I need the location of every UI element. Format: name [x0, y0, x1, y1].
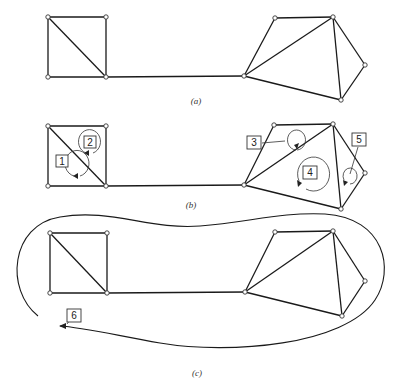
- edge: [245, 232, 275, 292]
- node: [340, 314, 344, 318]
- arrowhead-icon: [297, 180, 302, 187]
- edge: [245, 292, 342, 316]
- loop-label-3: 3: [251, 137, 257, 148]
- loop-label-2: 2: [87, 137, 93, 148]
- node: [46, 15, 50, 19]
- edge: [48, 17, 106, 77]
- edge: [244, 18, 275, 76]
- node: [331, 122, 335, 126]
- node: [46, 184, 50, 188]
- loop-label-6: 6: [71, 310, 77, 321]
- node: [273, 230, 277, 234]
- panel-c-edges: [50, 231, 365, 316]
- node: [363, 279, 367, 283]
- panel-a: (a): [46, 15, 367, 106]
- node: [48, 231, 52, 235]
- node: [339, 207, 343, 211]
- edge: [342, 281, 365, 316]
- node: [242, 183, 246, 187]
- panel-c-nodes: [48, 229, 367, 318]
- edge: [244, 124, 333, 185]
- edge: [274, 124, 333, 125]
- edge: [244, 17, 333, 76]
- node: [104, 184, 108, 188]
- node: [272, 123, 276, 127]
- panel-a-nodes: [46, 15, 367, 102]
- edge: [275, 17, 333, 18]
- mesh-loop-2: 2: [79, 130, 101, 156]
- mesh-loop-3: 3: [247, 130, 305, 150]
- edge: [275, 231, 333, 232]
- node: [105, 291, 109, 295]
- panel-c: 6 (c): [17, 214, 384, 378]
- node: [331, 229, 335, 233]
- arrowhead-icon: [343, 180, 348, 186]
- arrowhead-icon: [59, 323, 66, 329]
- mesh-loop-4: 4: [297, 157, 330, 191]
- node: [243, 290, 247, 294]
- figure-canvas: (a) 1 2: [0, 0, 393, 381]
- bridge-edge: [106, 185, 244, 186]
- node: [105, 231, 109, 235]
- arrowhead-icon: [73, 173, 78, 179]
- panel-b-caption: (b): [186, 200, 197, 210]
- panel-c-caption: (c): [192, 368, 202, 378]
- node: [46, 75, 50, 79]
- node: [331, 15, 335, 19]
- edge: [245, 231, 333, 292]
- bridge-edge: [106, 76, 244, 77]
- loop-label-4: 4: [307, 167, 313, 178]
- panel-b-nodes: [46, 122, 367, 211]
- node: [46, 124, 50, 128]
- node: [273, 16, 277, 20]
- node: [363, 171, 367, 175]
- node: [48, 291, 52, 295]
- mesh-loop-6: 6: [67, 309, 81, 324]
- loop-label-5: 5: [356, 134, 362, 145]
- node: [363, 63, 367, 67]
- loop-label-1: 1: [59, 156, 65, 167]
- edge: [244, 125, 274, 185]
- bridge-edge: [107, 292, 245, 293]
- node: [104, 124, 108, 128]
- panel-a-edges: [48, 17, 365, 100]
- edge: [244, 185, 341, 209]
- edge: [333, 17, 365, 65]
- edge: [244, 76, 341, 100]
- node: [339, 98, 343, 102]
- circular-arrow-icon: [65, 150, 89, 176]
- node: [104, 15, 108, 19]
- mesh-loop-5: 5: [343, 133, 366, 186]
- node: [242, 74, 246, 78]
- edge: [333, 124, 341, 209]
- edge: [341, 173, 365, 209]
- panel-b: 1 2 3 4 5: [46, 122, 367, 211]
- edge: [341, 65, 365, 100]
- edge: [50, 233, 107, 293]
- node: [104, 75, 108, 79]
- mesh-loop-1: 1: [56, 150, 89, 179]
- panel-a-caption: (a): [191, 96, 202, 106]
- edge: [333, 124, 365, 173]
- edge: [333, 17, 341, 100]
